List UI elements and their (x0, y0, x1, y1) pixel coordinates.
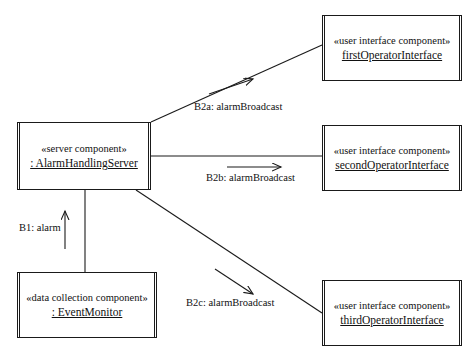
message-label-b2b: B2b: alarmBroadcast (206, 172, 295, 184)
component-second-operator-interface[interactable]: «user interface component» secondOperato… (322, 125, 462, 191)
message-label-b2c: B2c: alarmBroadcast (186, 297, 274, 309)
component-event-monitor[interactable]: «data collection component» : EventMonit… (17, 272, 157, 338)
component-alarm-handling-server[interactable]: «server component» : AlarmHandlingServer (17, 122, 151, 190)
message-arrow-b2a (209, 79, 253, 94)
component-name: firstOperatorInterface (342, 48, 442, 62)
link-server-third-operator (136, 190, 322, 313)
component-name: secondOperatorInterface (335, 158, 449, 172)
component-name: thirdOperatorInterface (340, 313, 443, 327)
component-name: : EventMonitor (52, 305, 123, 319)
component-name: : AlarmHandlingServer (30, 156, 138, 170)
component-stereotype: «user interface component» (334, 299, 451, 312)
message-arrow-b2c (215, 269, 253, 294)
message-label-b1: B1: alarm (19, 222, 61, 234)
component-first-operator-interface[interactable]: «user interface component» firstOperator… (322, 15, 462, 81)
message-label-b2a: B2a: alarmBroadcast (194, 101, 282, 113)
component-stereotype: «server component» (41, 142, 126, 155)
component-third-operator-interface[interactable]: «user interface component» thirdOperator… (322, 280, 462, 346)
component-stereotype: «data collection component» (26, 291, 147, 304)
component-stereotype: «user interface component» (334, 144, 451, 157)
component-stereotype: «user interface component» (334, 34, 451, 47)
